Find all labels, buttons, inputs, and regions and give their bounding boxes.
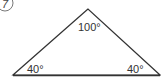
triangle-diagram: 7 100° 40° 40° (0, 0, 161, 84)
left-angle-label: 40° (27, 63, 44, 75)
right-angle-label: 40° (127, 63, 144, 75)
problem-number: 7 (2, 0, 9, 10)
apex-angle-label: 100° (78, 21, 101, 33)
problem-number-badge: 7 (0, 0, 13, 11)
